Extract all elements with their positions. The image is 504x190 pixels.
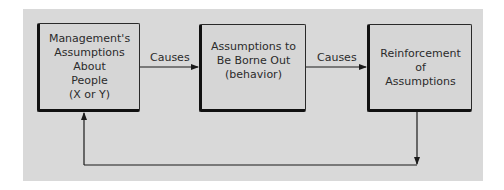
node-label: Reinforcement of Assumptions [380, 47, 460, 89]
node-reinforcement: Reinforcement of Assumptions [367, 24, 472, 112]
node-assumptions-borne-out: Assumptions to Be Borne Out (behavior) [199, 24, 306, 112]
node-label: Management's Assumptions About People (X… [49, 32, 130, 102]
edge-label-causes-2: Causes [317, 51, 357, 64]
node-label: Assumptions to Be Borne Out (behavior) [211, 40, 296, 82]
node-management-assumptions: Management's Assumptions About People (X… [37, 23, 140, 112]
edge-label-causes-1: Causes [150, 51, 190, 64]
